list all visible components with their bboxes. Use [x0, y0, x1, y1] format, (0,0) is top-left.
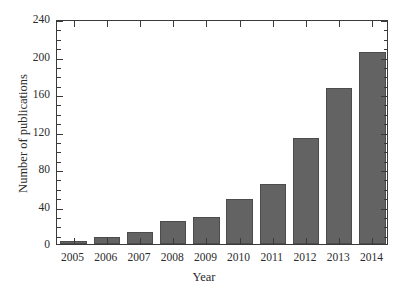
- y-axis-minor-tick: [384, 199, 388, 200]
- x-axis-major-tick: [372, 238, 373, 244]
- x-axis-major-tick: [173, 21, 174, 27]
- y-axis-major-tick: [381, 96, 387, 97]
- y-axis-minor-tick: [57, 180, 61, 181]
- y-axis-minor-tick: [57, 237, 61, 238]
- y-axis-minor-tick: [57, 40, 61, 41]
- chart-figure: Number of publications Year 040801201602…: [0, 0, 408, 294]
- y-axis-minor-tick: [384, 218, 388, 219]
- x-axis-major-tick: [372, 21, 373, 27]
- y-axis-major-tick: [381, 209, 387, 210]
- y-axis-minor-tick: [57, 152, 61, 153]
- x-axis-major-tick: [206, 21, 207, 27]
- y-axis-minor-tick: [384, 124, 388, 125]
- x-axis-major-tick: [306, 238, 307, 244]
- y-axis-major-tick: [381, 134, 387, 135]
- y-axis-major-tick: [57, 96, 63, 97]
- x-axis-major-tick: [173, 238, 174, 244]
- plot-frame: [56, 20, 388, 245]
- y-axis-major-tick: [57, 134, 63, 135]
- y-tick-label: 240: [10, 14, 50, 25]
- x-axis-major-tick: [140, 21, 141, 27]
- y-axis-minor-tick: [57, 162, 61, 163]
- y-tick-label: 160: [10, 89, 50, 100]
- y-axis-minor-tick: [384, 227, 388, 228]
- y-axis-minor-tick: [384, 143, 388, 144]
- y-axis-major-tick: [57, 59, 63, 60]
- y-axis-minor-tick: [57, 105, 61, 106]
- y-axis-major-tick: [381, 59, 387, 60]
- y-axis-minor-tick: [384, 190, 388, 191]
- bar: [359, 52, 386, 244]
- y-axis-minor-tick: [57, 68, 61, 69]
- y-axis-minor-tick: [384, 40, 388, 41]
- y-axis-minor-tick: [384, 237, 388, 238]
- y-axis-major-tick: [381, 171, 387, 172]
- y-axis-minor-tick: [384, 115, 388, 116]
- y-axis-minor-tick: [384, 162, 388, 163]
- y-axis-minor-tick: [57, 124, 61, 125]
- x-axis-major-tick: [107, 21, 108, 27]
- x-axis-major-tick: [240, 21, 241, 27]
- x-axis-major-tick: [339, 238, 340, 244]
- y-axis-minor-tick: [57, 49, 61, 50]
- y-axis-minor-tick: [384, 105, 388, 106]
- y-axis-minor-tick: [384, 180, 388, 181]
- x-tick-label: 2014: [349, 251, 393, 263]
- x-axis-major-tick: [74, 21, 75, 27]
- y-axis-minor-tick: [384, 87, 388, 88]
- x-axis-major-tick: [107, 238, 108, 244]
- x-axis-major-tick: [140, 238, 141, 244]
- y-axis-minor-tick: [57, 30, 61, 31]
- plot-area: [57, 21, 387, 244]
- y-axis-minor-tick: [57, 115, 61, 116]
- y-axis-minor-tick: [57, 190, 61, 191]
- bar: [260, 184, 287, 244]
- x-axis-major-tick: [339, 21, 340, 27]
- y-tick-label: 80: [10, 164, 50, 175]
- y-axis-major-tick: [57, 209, 63, 210]
- y-axis-major-tick: [381, 21, 387, 22]
- y-tick-label: 40: [10, 202, 50, 213]
- x-axis-title: Year: [0, 270, 408, 285]
- bar: [293, 138, 320, 244]
- y-axis-minor-tick: [57, 77, 61, 78]
- y-axis-minor-tick: [57, 218, 61, 219]
- x-axis-major-tick: [306, 21, 307, 27]
- y-axis-minor-tick: [384, 30, 388, 31]
- y-tick-label: 200: [10, 52, 50, 63]
- y-tick-label: 0: [10, 239, 50, 250]
- x-axis-major-tick: [273, 21, 274, 27]
- x-axis-major-tick: [206, 238, 207, 244]
- x-axis-major-tick: [74, 238, 75, 244]
- bar-series: [57, 21, 387, 244]
- y-axis-minor-tick: [57, 87, 61, 88]
- y-axis-minor-tick: [57, 199, 61, 200]
- y-axis-minor-tick: [57, 143, 61, 144]
- y-axis-major-tick: [57, 21, 63, 22]
- x-axis-major-tick: [273, 238, 274, 244]
- y-axis-major-tick: [57, 171, 63, 172]
- y-tick-label: 120: [10, 127, 50, 138]
- y-axis-minor-tick: [384, 152, 388, 153]
- bar: [326, 88, 353, 244]
- y-axis-minor-tick: [384, 77, 388, 78]
- y-axis-minor-tick: [384, 49, 388, 50]
- y-axis-minor-tick: [57, 227, 61, 228]
- x-axis-major-tick: [240, 238, 241, 244]
- y-axis-minor-tick: [384, 68, 388, 69]
